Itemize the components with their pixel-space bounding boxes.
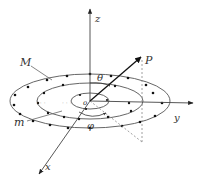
z-axis-label: z xyxy=(94,13,101,24)
y-axis xyxy=(90,101,193,103)
inner-ellipsis: · · · xyxy=(62,99,72,106)
m-outer-pointer xyxy=(31,66,52,80)
inner-ring-label: m xyxy=(14,116,24,129)
p-plane-projection xyxy=(90,101,142,142)
m-inner-pointer xyxy=(27,111,62,121)
phi-arc xyxy=(79,112,106,116)
x-axis-label: x xyxy=(45,161,51,172)
outer-ellipsis: · · · xyxy=(36,99,46,106)
y-axis-label: y xyxy=(173,112,180,123)
outer-ring-label: M xyxy=(19,56,32,69)
point-label: P xyxy=(144,54,153,67)
theta-label: θ xyxy=(97,72,103,83)
phi-label: φ xyxy=(87,120,94,131)
spherical-coordinates-diagram: z y x P θ φ o M m · · · · · · xyxy=(0,0,202,179)
origin-label: o xyxy=(83,99,87,107)
